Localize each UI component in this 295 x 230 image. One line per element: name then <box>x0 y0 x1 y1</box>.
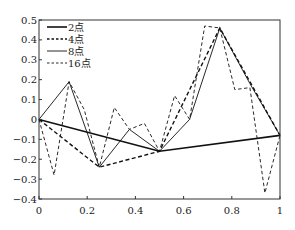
x-tick-label: 0.4 <box>127 205 143 216</box>
x-tick-label: 1 <box>277 205 283 216</box>
y-tick-label: 0.3 <box>21 54 37 65</box>
y-tick-label: 0 <box>31 114 37 125</box>
y-tick-label: −0.3 <box>13 174 37 185</box>
y-tick-label: −0.4 <box>13 194 37 205</box>
x-tick-label: 0.2 <box>79 205 95 216</box>
y-tick-label: 0.5 <box>21 15 37 26</box>
legend-label: 2点 <box>68 22 84 33</box>
line-chart: 0.50.40.30.20.10−0.1−0.2−0.3−0.4 00.20.4… <box>0 0 295 230</box>
y-axis: 0.50.40.30.20.10−0.1−0.2−0.3−0.4 <box>13 15 42 205</box>
series-line-0 <box>39 119 280 151</box>
legend-label: 8点 <box>68 46 84 57</box>
y-tick-label: 0.4 <box>21 34 37 45</box>
y-tick-label: −0.2 <box>13 154 37 165</box>
y-tick-label: 0.1 <box>21 94 37 105</box>
x-tick-label: 0.8 <box>224 205 240 216</box>
legend-label: 16点 <box>68 58 91 69</box>
y-tick-label: −0.1 <box>13 134 37 145</box>
x-tick-label: 0 <box>36 205 42 216</box>
x-tick-label: 0.6 <box>176 205 192 216</box>
y-tick-label: 0.2 <box>21 74 37 85</box>
legend: 2点4点8点16点 <box>47 22 91 69</box>
legend-label: 4点 <box>68 34 84 45</box>
